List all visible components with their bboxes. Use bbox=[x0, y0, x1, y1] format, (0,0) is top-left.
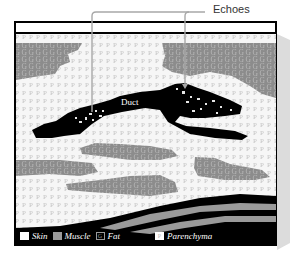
frame-shadow bbox=[277, 34, 290, 250]
legend-label: Muscle bbox=[65, 231, 91, 241]
legend-label: Fat bbox=[108, 231, 121, 241]
duct-label: Duct bbox=[121, 97, 139, 107]
legend-item-skin: Skin bbox=[20, 231, 48, 241]
legend-item-muscle: Muscle bbox=[53, 231, 91, 241]
skin-swatch-icon bbox=[20, 232, 29, 240]
top-band bbox=[16, 23, 275, 32]
legend-label: Parenchyma bbox=[167, 231, 212, 241]
legend: Skin Muscle G Fat P Parenchyma bbox=[20, 230, 217, 242]
parenchyma-swatch-icon: P bbox=[155, 232, 164, 240]
fat-swatch-icon: G bbox=[96, 232, 105, 240]
echoes-label: Echoes bbox=[213, 3, 250, 15]
legend-label: Skin bbox=[32, 231, 48, 241]
legend-item-fat: G Fat bbox=[96, 231, 121, 241]
muscle-swatch-icon bbox=[53, 232, 62, 240]
breast-ultrasound-diagram: P G bbox=[0, 0, 293, 255]
legend-item-parenchyma: P Parenchyma bbox=[155, 231, 212, 241]
